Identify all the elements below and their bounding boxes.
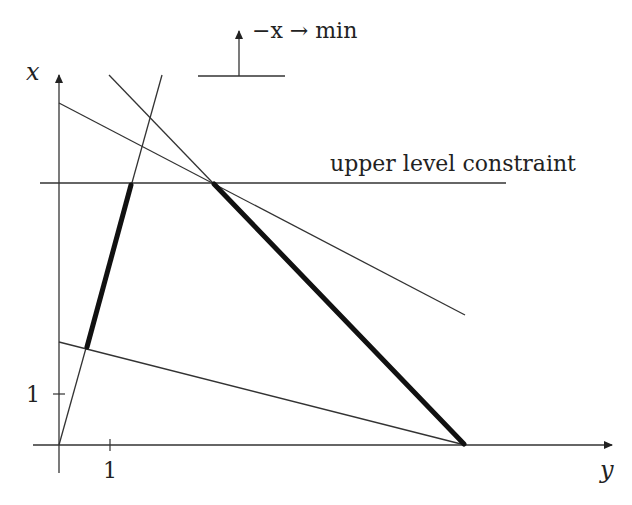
objective-label: −x → min: [252, 18, 357, 43]
objective-indicator: −x → min: [198, 18, 357, 76]
solution-segments: [87, 184, 464, 444]
line-lower: [59, 342, 465, 445]
bold-segment-left: [87, 185, 131, 347]
tick-x-label: 1: [103, 458, 117, 483]
bilevel-diagram: −x → min upper level constraint x y 1 1: [0, 0, 632, 505]
line-upper-left: [59, 103, 465, 315]
vertical-axis-label: x: [26, 58, 40, 86]
tick-y-label: 1: [26, 382, 40, 407]
horizontal-axis-label: y: [599, 456, 614, 484]
constraint-label: upper level constraint: [330, 151, 576, 176]
bold-segment-right: [214, 184, 464, 444]
